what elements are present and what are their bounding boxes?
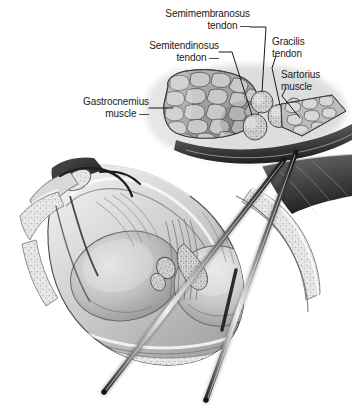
illustration-figure: Semimembranosus tendon — Semitendinosus … [0, 0, 354, 415]
label-line-1: Gastrocnemius [83, 96, 149, 108]
label-gastrocnemius-muscle: Gastrocnemius muscle — [83, 96, 149, 119]
label-line-2: muscle [281, 81, 320, 93]
label-line-1: Semitendinosus [149, 40, 219, 52]
label-line-1: Semimembranosus [165, 8, 250, 20]
label-line-2: tendon — [149, 52, 219, 64]
label-line-2: tendon [272, 48, 305, 60]
label-sartorius-muscle: Sartorius muscle [281, 69, 320, 92]
semitendinosus-tendon-cross-section [243, 114, 267, 140]
label-gracilis-tendon: Gracilis tendon [272, 36, 305, 59]
label-line-2: tendon — [165, 20, 250, 32]
label-line-1: Gracilis [272, 36, 305, 48]
label-semitendinosus-tendon: Semitendinosus tendon — [149, 40, 219, 63]
label-line-2: muscle — [83, 108, 149, 120]
label-line-1: Sartorius [281, 69, 320, 81]
label-semimembranosus-tendon: Semimembranosus tendon — [165, 8, 250, 31]
